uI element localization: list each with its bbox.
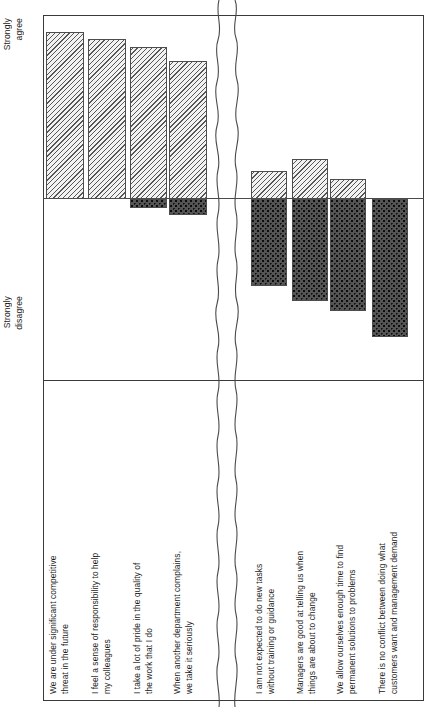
- bar-agree-5: [251, 171, 287, 199]
- bar-disagree-7: [330, 199, 366, 311]
- bar-agree-1: [46, 32, 84, 199]
- bar-disagree-4: [169, 199, 207, 215]
- category-label-box: We are under significant competitive thr…: [43, 381, 424, 701]
- bar-agree-4: [169, 61, 207, 199]
- y-axis-top-label-line1: Strongly: [2, 18, 12, 50]
- y-axis-bottom-label-second-line: disagree: [14, 296, 25, 330]
- y-axis-bottom-label: Strongly: [2, 296, 13, 328]
- bar-agree-7: [330, 179, 366, 199]
- bar-agree-3: [130, 47, 167, 199]
- bar-agree-2: [88, 39, 126, 199]
- bar-agree-6: [292, 159, 328, 199]
- bar-disagree-5: [251, 199, 287, 286]
- y-axis-top-label-second-line: agree: [14, 18, 25, 40]
- bar-disagree-3: [130, 199, 167, 208]
- bar-disagree-8: [372, 199, 408, 337]
- y-axis-bottom-label-line1: Strongly: [2, 296, 12, 328]
- category-label-8-line2: customers want and management demand: [389, 496, 427, 694]
- bar-disagree-6: [292, 199, 328, 301]
- y-axis-top-label: Strongly: [2, 18, 13, 50]
- right-panel: [244, 15, 424, 381]
- left-panel: [43, 15, 215, 381]
